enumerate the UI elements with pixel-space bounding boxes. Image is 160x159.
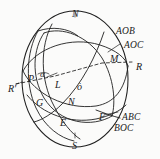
point-aoc: AOC: [124, 41, 144, 51]
point-e: E: [60, 118, 66, 128]
point-r-prime: R': [8, 84, 16, 94]
point-abc: ABC: [122, 113, 141, 123]
point-l: L: [55, 80, 61, 90]
angle-alpha: α: [40, 70, 45, 79]
point-aob: AOB: [116, 27, 135, 37]
point-n-inner: N: [68, 97, 75, 107]
point-m: M: [110, 54, 118, 64]
point-p: P: [28, 74, 34, 84]
north-pole: N: [72, 9, 79, 19]
center-o: ȯ: [77, 82, 82, 92]
point-f: F: [99, 112, 105, 122]
spherical-geometry-figure: NSAOBAOCMRR'PαLȯGNEFABCBOC: [0, 0, 160, 159]
sphere-diagram-canvas: [0, 0, 160, 159]
south-pole: S: [72, 141, 77, 151]
point-g: G: [36, 98, 43, 108]
point-boc: BOC: [114, 124, 134, 134]
great-circle-abc-back: [44, 31, 114, 116]
great-circle-aob-upper: [38, 28, 78, 36]
point-r: R: [136, 62, 142, 72]
